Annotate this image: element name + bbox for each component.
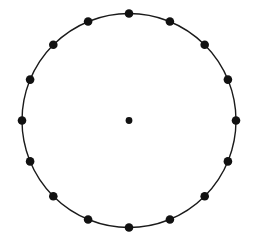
boundary-point — [224, 75, 233, 84]
boundary-point — [166, 17, 175, 26]
boundary-point — [26, 75, 35, 84]
figure-canvas — [0, 0, 257, 241]
boundary-point — [18, 116, 27, 125]
boundary-point — [84, 215, 93, 224]
boundary-point — [49, 192, 58, 201]
boundary-point — [200, 41, 209, 50]
boundary-point — [232, 116, 241, 125]
boundary-point — [26, 157, 35, 166]
boundary-point — [125, 9, 134, 18]
boundary-point — [224, 157, 233, 166]
circle-diagram — [0, 0, 257, 241]
boundary-point — [200, 192, 209, 201]
boundary-point — [166, 215, 175, 224]
center-point — [126, 117, 133, 124]
boundary-point — [125, 223, 134, 232]
boundary-point — [49, 41, 58, 50]
boundary-point — [84, 17, 93, 26]
